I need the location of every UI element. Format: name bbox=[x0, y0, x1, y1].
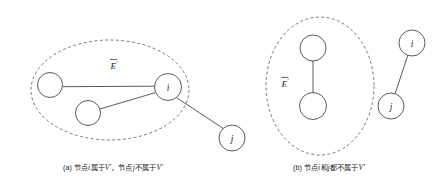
caption-b-text-1: 节点 bbox=[304, 163, 318, 172]
caption-b-text-3: 都不属于 bbox=[330, 163, 358, 172]
node-b-n2[interactable] bbox=[300, 93, 327, 120]
group-label-a: E′ bbox=[109, 59, 118, 71]
group-label-a-prime: ′ bbox=[116, 59, 118, 67]
caption-panel-b: (b) 节点i和j都不属于V′ bbox=[293, 162, 365, 173]
caption-a-text-2: 属于 bbox=[91, 163, 105, 172]
caption-b-prefix: (b) bbox=[293, 163, 302, 172]
svg-text:E′: E′ bbox=[280, 77, 289, 89]
node-a-n1[interactable] bbox=[38, 73, 63, 98]
caption-a-text-3: ，节点 bbox=[111, 163, 132, 172]
node-b-n1[interactable] bbox=[300, 35, 326, 61]
panel-a-graphics: i j E′ bbox=[31, 40, 245, 151]
caption-a-text-4: 不属于 bbox=[135, 163, 156, 172]
caption-a-prefix: (a) bbox=[63, 163, 72, 172]
group-label-b: E′ bbox=[280, 77, 289, 89]
edge-a-n2-i bbox=[100, 93, 156, 109]
svg-text:E′: E′ bbox=[109, 59, 118, 71]
edge-b-i-j bbox=[395, 55, 408, 94]
edge-a-n1-i bbox=[62, 86, 154, 87]
figure-captions: (a) 节点i属于V′，节点j不属于V′ (b) 节点i和j都不属于V′ bbox=[0, 162, 445, 182]
node-b-i-label: i bbox=[411, 39, 414, 49]
caption-b-text-2: 和 bbox=[321, 163, 328, 172]
caption-panel-a: (a) 节点i属于V′，节点j不属于V′ bbox=[63, 162, 163, 173]
figure-root: i j E′ i j bbox=[0, 0, 445, 182]
edge-a-i-j bbox=[177, 98, 224, 129]
figure-canvas: i j E′ i j bbox=[0, 0, 445, 182]
caption-a-text-1: 节点 bbox=[74, 163, 88, 172]
panel-b-graphics: i j E′ bbox=[266, 17, 425, 155]
caption-b-italic-3: V′ bbox=[358, 163, 365, 172]
group-label-b-prime: ′ bbox=[287, 77, 289, 85]
caption-a-italic-4: V′ bbox=[156, 163, 163, 172]
node-a-i-label: i bbox=[167, 83, 170, 93]
node-a-n2[interactable] bbox=[76, 101, 101, 126]
